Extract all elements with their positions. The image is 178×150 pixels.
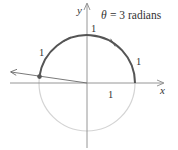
arc-label-top: 1 — [91, 23, 96, 34]
terminal-point — [37, 74, 42, 79]
unit-circle-diagram: y x θ = 3 radians 1 1 1 1 — [0, 0, 178, 150]
theta-symbol: θ — [101, 9, 107, 21]
arc-label-left: 1 — [39, 47, 44, 58]
x-axis-label: x — [159, 84, 165, 96]
terminal-ray — [11, 72, 87, 83]
theta-value: = 3 radians — [110, 9, 162, 21]
arc-label-right: 1 — [136, 56, 141, 67]
y-axis-label: y — [76, 4, 82, 16]
radius-label: 1 — [108, 89, 113, 100]
